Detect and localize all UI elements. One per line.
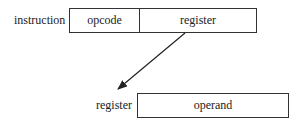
operand-box: operand [137,93,289,118]
operand-field: operand [138,94,288,117]
register-label: register [96,98,132,112]
